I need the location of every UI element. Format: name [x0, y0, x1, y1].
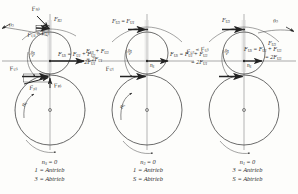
figure-canvas: n3 FN3 FR3 FU3 = FU1 FUS = FU1 + FU3 = 2…: [0, 0, 298, 194]
panel1-FN3-label: FN3: [31, 4, 40, 13]
panel3-caption: n1 = 0 3 = Antrieb S = Abtrieb: [197, 158, 298, 183]
panel2-sum-equation-left: FU1 + FU3 = 2FU1: [86, 48, 108, 63]
panel3-FU3-right-label: FU3: [268, 40, 276, 48]
panel-2-geometry: [101, 14, 194, 154]
panel-3-geometry: [200, 14, 296, 154]
panel3-nS-label: nS: [247, 63, 251, 69]
panel2-FU1-label: FU1: [105, 64, 114, 73]
panel2-nS-label: nS: [150, 63, 154, 69]
panel1-FR3-label: FR3: [54, 16, 61, 24]
panel1-caption: nS = 0 1 = Antrieb 3 = Abtrieb: [0, 158, 99, 183]
panel3-FU3-top-label: FU3: [222, 17, 230, 25]
panel1-FN1-label: FN1: [29, 84, 37, 92]
panel2-caption: n3 = 0 1 = Antrieb S = Abtrieb: [99, 158, 197, 183]
panel3-FUS-equation: FUS = FU1 + FU3 = 2FU3: [244, 46, 281, 61]
panel2-FU3-eq-FU1-label: FU3 = FU1: [112, 18, 134, 26]
